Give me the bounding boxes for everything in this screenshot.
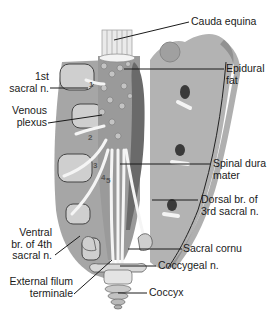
- label-cauda-equina: Cauda equina: [191, 16, 256, 28]
- label-external-filum-terminale: External filum terminale: [9, 276, 73, 299]
- label-spinal-dura-mater: Spinal dura mater: [213, 158, 266, 181]
- label-venous-plexus: Venous plexus: [12, 105, 47, 128]
- segment-number-3: 3: [93, 161, 97, 170]
- label-1st-sacral-n: 1st sacral n.: [9, 71, 49, 94]
- label-coccyx: Coccyx: [149, 287, 183, 299]
- segment-number-2: 2: [88, 133, 92, 142]
- label-epidural-fat: Epidural fat: [226, 63, 265, 86]
- segment-number-5: 5: [106, 176, 110, 185]
- segment-number-1: 1: [89, 80, 93, 89]
- label-dorsal-br-3rd-sacral-n: Dorsal br. of 3rd sacral n.: [201, 194, 259, 217]
- label-coccygeal-n: Coccygeal n.: [158, 260, 219, 272]
- label-sacral-cornu: Sacral cornu: [183, 243, 242, 255]
- segment-number-4: 4: [101, 173, 105, 182]
- label-ventral-br-4th-sacral-n: Ventral br. of 4th sacral n.: [11, 227, 52, 262]
